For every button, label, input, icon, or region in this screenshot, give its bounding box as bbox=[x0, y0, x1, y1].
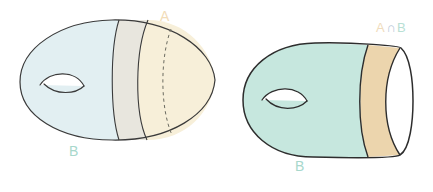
diagram-canvas bbox=[0, 0, 433, 192]
right-figure bbox=[243, 43, 413, 158]
left-region-a bbox=[138, 20, 215, 140]
right-region-a-intersect-b bbox=[361, 45, 401, 157]
label-set-b: B bbox=[397, 20, 406, 35]
label-b-right-figure: B bbox=[295, 158, 305, 174]
right-region-boundary bbox=[400, 48, 413, 155]
label-set-a: A bbox=[376, 20, 385, 35]
label-a-left-figure: A bbox=[160, 8, 170, 24]
left-figure bbox=[20, 20, 215, 140]
label-b-left-figure: B bbox=[69, 143, 79, 159]
label-a-intersect-b: A∩B bbox=[376, 20, 406, 35]
intersection-symbol-icon: ∩ bbox=[385, 20, 397, 35]
